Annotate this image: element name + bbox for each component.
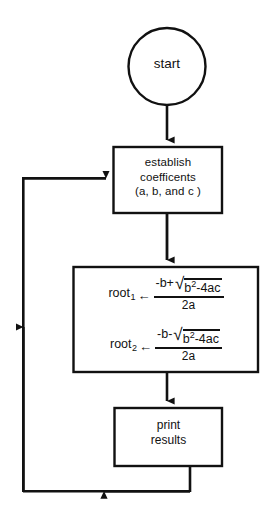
- formulas-node-label: root1 ← -b+ √ b2-4ac 2a root2 ← -b-: [74, 268, 258, 372]
- root2-radical: √ b2-4ac: [173, 328, 220, 345]
- root1-subscript: 1: [130, 292, 135, 302]
- radical-icon: √: [175, 276, 184, 293]
- root2-numerator: -b- √ b2-4ac: [155, 328, 222, 346]
- root2-radicand-suffix: -4ac: [195, 332, 219, 346]
- root2-radicand: b2-4ac: [183, 329, 220, 345]
- radical-icon: √: [173, 327, 182, 344]
- root1-numerator: -b+ √ b2-4ac: [154, 277, 224, 295]
- root2-subscript: 2: [132, 343, 137, 353]
- root1-denominator: 2a: [182, 298, 195, 311]
- root2-equation: root2 ← -b- √ b2-4ac 2a: [74, 322, 258, 368]
- root2-radicand-base: b: [183, 332, 190, 346]
- root1-assign-arrow: ←: [138, 289, 151, 302]
- establish-node-shape: [114, 147, 223, 213]
- root1-radical: √ b2-4ac: [175, 277, 222, 294]
- root2-name-wrap: root2: [110, 337, 137, 353]
- flowchart-graphics: [0, 0, 277, 530]
- root1-fraction: -b+ √ b2-4ac 2a: [154, 277, 224, 310]
- root1-radicand: b2-4ac: [184, 278, 221, 294]
- root2-name: root: [110, 337, 132, 351]
- root1-equation: root1 ← -b+ √ b2-4ac 2a: [74, 271, 258, 317]
- print-node-shape: [115, 408, 223, 466]
- root1-name: root: [108, 286, 130, 300]
- root1-radicand-suffix: -4ac: [196, 281, 220, 295]
- root2-fraction: -b- √ b2-4ac 2a: [155, 328, 222, 361]
- start-node-shape: [129, 28, 206, 105]
- root2-numerator-prefix: -b-: [157, 328, 172, 341]
- root1-numerator-prefix: -b+: [156, 277, 174, 290]
- root1-name-wrap: root1: [108, 286, 135, 302]
- flowchart-canvas: start establish coefficents (a, b, and c…: [0, 0, 277, 530]
- root2-assign-arrow: ←: [139, 340, 152, 353]
- root2-denominator: 2a: [182, 349, 195, 362]
